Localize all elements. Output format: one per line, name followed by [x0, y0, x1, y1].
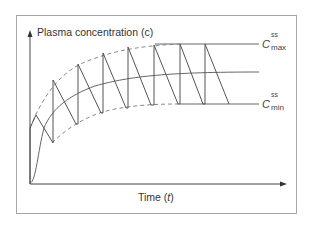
y-axis-label: Plasma concentration (c)	[37, 26, 153, 38]
cmax-sub: max	[271, 43, 286, 52]
cmax-base: C	[262, 38, 270, 50]
cmin-base: C	[262, 98, 270, 110]
cmax-sup: ss	[271, 31, 278, 38]
x-axis-label: Time (t)	[138, 191, 174, 203]
dosing-sawtooth	[30, 44, 229, 184]
y-axis-arrow-icon	[28, 30, 33, 37]
trough-envelope	[52, 104, 180, 143]
cmin-sup: ss	[271, 91, 278, 98]
x-axis-arrow-icon	[280, 182, 287, 187]
cmin-sub: min	[271, 103, 284, 112]
cmax-label: C ss max	[262, 38, 270, 50]
x-axis-label-close: )	[170, 191, 174, 203]
x-axis-label-main: Time (	[138, 191, 167, 203]
cmin-label: C ss min	[262, 98, 270, 110]
